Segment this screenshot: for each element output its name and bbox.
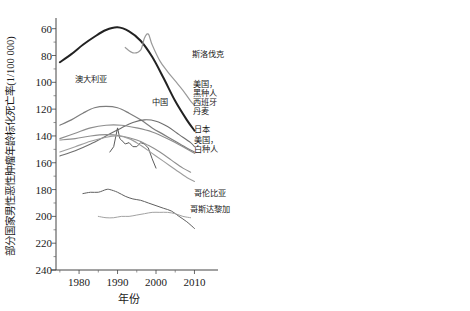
panel_male-x-tick-label-2000: 2000 bbox=[145, 276, 168, 288]
panel_male-label-usa_white_2: 白种人 bbox=[194, 144, 218, 154]
panel_male-label-china: 中国 bbox=[152, 97, 168, 107]
panel_male-y-tick-label-240: 60 bbox=[41, 23, 53, 35]
panel_male-label-spain: 西班牙 bbox=[193, 97, 217, 107]
panel_male-y-tick-label-200: 100 bbox=[36, 76, 53, 88]
panel_male-label-usa_white_1: 美国， bbox=[194, 135, 218, 145]
panel-male: 2402202001801601401201008060198019902000… bbox=[0, 0, 235, 311]
panel_male-x-tick-label-1980: 1980 bbox=[68, 276, 91, 288]
panel_male-series-7 bbox=[60, 136, 195, 182]
panel_male-x-tick-label-2010: 2010 bbox=[183, 276, 206, 288]
panel_male-y-tick-label-140: 160 bbox=[36, 157, 53, 169]
panel_male-x-axis-title: 年份 bbox=[118, 292, 140, 305]
panel_male-y-tick-label-100: 200 bbox=[36, 210, 53, 222]
panel_male-y-tick-label-60: 240 bbox=[36, 264, 53, 276]
panel_male-label-denmark: 丹麦 bbox=[193, 106, 209, 116]
panel-female: 2402202001801601401201008060198019902000… bbox=[235, 0, 470, 311]
panel_male-label-usa_black_2: 黑种人 bbox=[193, 88, 217, 98]
panel_male-y-tick-label-220: 80 bbox=[41, 50, 53, 62]
panel_male-x-tick-label-1990: 1990 bbox=[107, 276, 130, 288]
male-chart-svg: 2402202001801601401201008060198019902000… bbox=[0, 0, 235, 311]
panel_male-series-8 bbox=[83, 189, 195, 228]
panel_male-label-australia: 澳大利亚 bbox=[75, 74, 107, 84]
panel_male-y-tick-label-180: 120 bbox=[36, 103, 53, 115]
panel_male-y-tick-label-120: 180 bbox=[36, 184, 53, 196]
panel_male-y-tick-label-80: 220 bbox=[36, 237, 53, 249]
panel_male-label-usa_black_1: 美国， bbox=[193, 79, 217, 89]
panel_male-y-tick-label-160: 140 bbox=[36, 130, 53, 142]
cancer-mortality-figure: 2402202001801601401201008060198019902000… bbox=[0, 0, 470, 311]
panel_male-series-5 bbox=[110, 128, 156, 168]
panel_male-label-japan: 日本 bbox=[194, 124, 210, 134]
panel_male-y-axis-title: 部分国家男性恶性肿瘤年龄标化死亡率(1/100 000) bbox=[4, 36, 17, 256]
panel_male-label-costa_rica: 哥斯达黎加 bbox=[190, 204, 230, 214]
female-chart-svg: 2402202001801601401201008060198019902000… bbox=[235, 0, 470, 311]
panel_male-label-slovakia: 斯洛伐克 bbox=[192, 49, 224, 59]
panel_male-label-colombia: 哥伦比亚 bbox=[194, 188, 226, 198]
